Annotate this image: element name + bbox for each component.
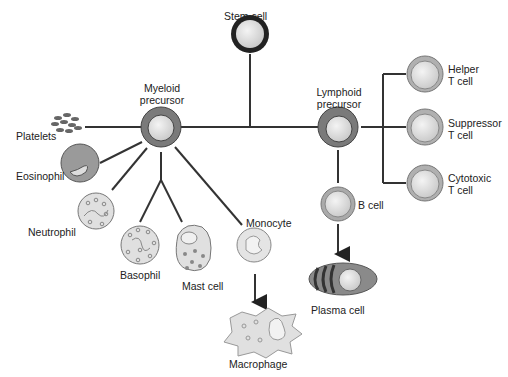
suppressor-t-cell-icon <box>407 109 443 145</box>
label-line: Helper <box>448 63 479 75</box>
helper-t-cell-icon <box>407 56 443 92</box>
b-cell-icon <box>321 187 355 221</box>
neutrophil-icon <box>78 193 114 229</box>
label-b-cell: B cell <box>358 199 384 211</box>
label-cytotoxic-t-cell: CytotoxicT cell <box>448 172 491 196</box>
label-stem-cell: Stem cell <box>224 10 267 22</box>
label-line: Suppressor <box>448 117 502 129</box>
label-suppressor-t-cell: SuppressorT cell <box>448 117 502 141</box>
label-eosinophil: Eosinophil <box>16 170 64 182</box>
label-monocyte: Monocyte <box>246 217 292 229</box>
label-line: Lymphoid <box>313 86 365 98</box>
plasma-cell-icon <box>309 263 377 295</box>
mast-cell-icon <box>176 225 211 270</box>
label-macrophage: Macrophage <box>229 358 287 370</box>
myeloid-precursor-icon <box>141 107 181 147</box>
label-myeloid-precursor: Myeloidprecursor <box>138 82 186 106</box>
label-line: precursor <box>138 94 186 106</box>
basophil-icon <box>121 226 159 264</box>
label-plasma-cell: Plasma cell <box>311 304 365 316</box>
label-line: T cell <box>448 184 491 196</box>
lymphoid-precursor-icon <box>318 107 358 147</box>
label-neutrophil: Neutrophil <box>28 226 76 238</box>
label-helper-t-cell: HelperT cell <box>448 63 479 87</box>
label-line: T cell <box>448 129 502 141</box>
label-line: Myeloid <box>138 82 186 94</box>
eosinophil-icon <box>61 144 99 182</box>
label-mast-cell: Mast cell <box>182 280 223 292</box>
macrophage-icon <box>224 308 302 358</box>
label-line: precursor <box>313 98 365 110</box>
cytotoxic-t-cell-icon <box>407 165 443 201</box>
diagram-canvas <box>0 0 508 377</box>
monocyte-icon <box>237 228 271 262</box>
label-basophil: Basophil <box>120 269 160 281</box>
label-line: Cytotoxic <box>448 172 491 184</box>
label-lymphoid-precursor: Lymphoidprecursor <box>313 86 365 110</box>
label-line: T cell <box>448 75 479 87</box>
label-platelets: Platelets <box>16 130 56 142</box>
